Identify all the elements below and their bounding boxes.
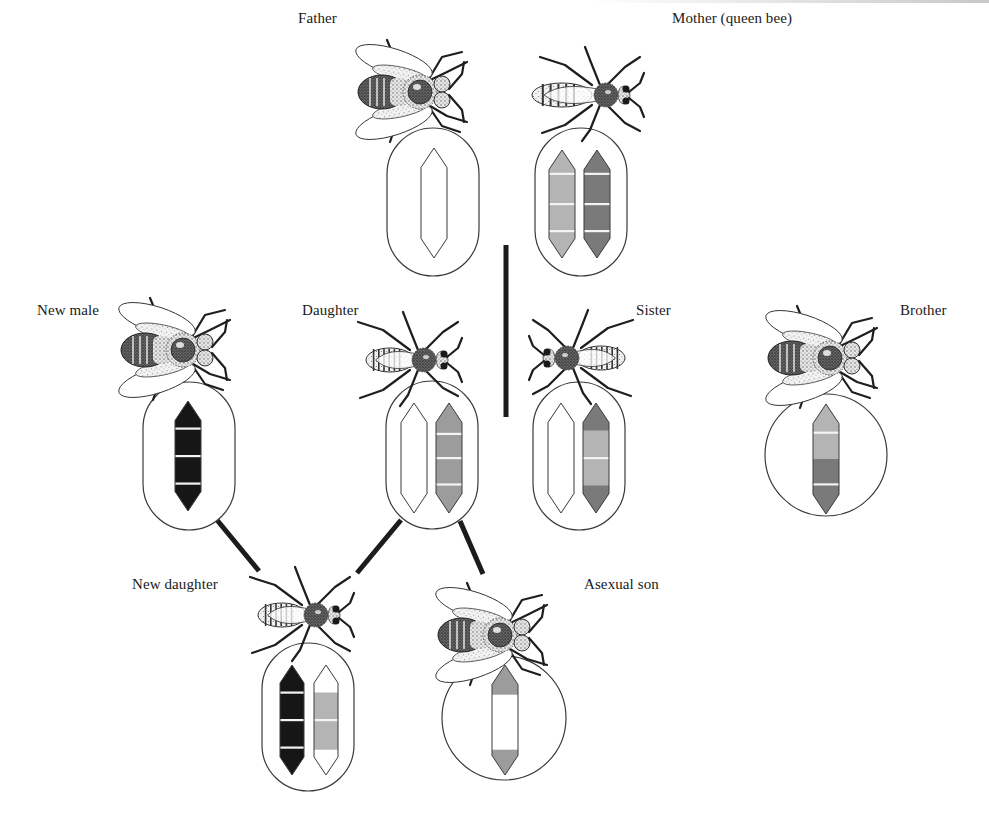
top-edge-shadow	[590, 0, 989, 3]
bee-inheritance-diagram: FatherMother (queen bee)New maleDaughter…	[0, 0, 989, 817]
label-father: Father	[298, 10, 337, 27]
bee-leg	[629, 98, 644, 117]
chromosome	[280, 665, 304, 776]
chromosome	[492, 665, 518, 776]
chromosome-band	[436, 483, 462, 485]
chromosome-segment	[421, 148, 447, 259]
bee-leg	[529, 361, 544, 380]
chromosome-band	[813, 432, 839, 434]
bee-leg	[573, 310, 588, 348]
label-new-daughter: New daughter	[132, 576, 218, 593]
bee-leg	[605, 103, 640, 131]
container-layer	[143, 128, 887, 791]
chromosome-band	[549, 203, 575, 205]
chromosome	[314, 665, 338, 776]
individual-new-daughter	[262, 643, 354, 791]
chromosome-band	[584, 173, 610, 175]
bee-leg	[339, 593, 354, 612]
chromosome-segment	[314, 693, 338, 751]
chromosome-band	[584, 230, 610, 232]
chromosome-band	[280, 747, 304, 749]
bee-leg	[529, 336, 544, 355]
individual-mother	[535, 128, 627, 276]
bee-leg	[358, 322, 410, 350]
chromosome-band	[175, 428, 201, 430]
label-new-male: New male	[37, 302, 99, 319]
bee-eye	[844, 342, 860, 358]
bee-leg	[605, 57, 640, 87]
bee-eye	[197, 334, 213, 350]
bee-worker-icon	[250, 567, 354, 661]
bee-layer	[115, 37, 877, 689]
chromosome-segment	[548, 403, 574, 514]
chromosome-segment	[401, 403, 427, 514]
chromosome-segment	[492, 695, 518, 751]
chromosome-band	[314, 719, 338, 721]
bee-eye	[434, 76, 450, 92]
bee-drone-icon	[762, 303, 877, 412]
bee-leg	[581, 320, 633, 348]
cell-capsule	[262, 643, 354, 791]
bee-leg	[339, 618, 354, 637]
chromosome-band	[549, 230, 575, 232]
chromosome-band	[436, 433, 462, 435]
diagram-canvas	[0, 0, 989, 817]
individual-brother	[765, 394, 887, 516]
label-mother: Mother (queen bee)	[672, 10, 792, 27]
connector-new-male-to-new-daughter	[217, 520, 259, 571]
chromosome-band	[584, 203, 610, 205]
individual-daughter	[386, 381, 478, 529]
bee-leg	[585, 47, 600, 85]
connector-daughter-to-asexual-son	[460, 521, 483, 574]
chromosome-band	[280, 719, 304, 721]
cell-capsule	[386, 381, 478, 529]
bee-leg	[540, 57, 592, 85]
bee-leg	[315, 577, 350, 607]
label-asexual-son: Asexual son	[584, 576, 659, 593]
chromosome-band	[583, 457, 609, 459]
chromosome-band	[280, 692, 304, 694]
chromosome-band	[436, 457, 462, 459]
bee-leg	[423, 322, 458, 352]
chromosome	[583, 403, 609, 514]
bee-thorax	[304, 603, 328, 627]
chromosome	[436, 403, 462, 514]
chromosome	[421, 148, 447, 259]
chromosome	[401, 403, 427, 514]
bee-leg	[447, 363, 462, 382]
individual-father	[387, 128, 479, 276]
chromosome-band	[813, 483, 839, 485]
bee-eye	[434, 92, 450, 108]
chromosome	[175, 401, 201, 512]
chromosome	[584, 150, 610, 259]
bee-leg	[403, 312, 418, 350]
bee-leg	[447, 338, 462, 357]
label-daughter: Daughter	[302, 302, 359, 319]
chromosome-band	[175, 455, 201, 457]
bee-drone-icon	[352, 37, 467, 146]
bee-eye	[844, 358, 860, 374]
label-brother: Brother	[900, 302, 947, 319]
bee-eye	[197, 350, 213, 366]
individual-sister	[533, 382, 625, 530]
bee-queen-icon	[532, 47, 644, 141]
chromosome	[549, 150, 575, 259]
label-sister: Sister	[636, 302, 671, 319]
bee-leg	[295, 567, 310, 605]
bee-eye	[514, 619, 530, 635]
chromosome-band	[549, 173, 575, 175]
bee-leg	[250, 577, 302, 605]
cell-capsule	[533, 382, 625, 530]
bee-worker-icon	[529, 310, 633, 404]
chromosome	[813, 404, 839, 515]
bee-thorax	[555, 346, 579, 370]
bee-thorax	[594, 83, 618, 107]
bee-eye	[514, 635, 530, 651]
bee-leg	[629, 73, 644, 92]
bee-leg	[533, 320, 568, 350]
chromosome	[548, 403, 574, 514]
connector-daughter-to-new-daughter	[357, 520, 401, 573]
individual-new-male	[143, 382, 235, 530]
bee-thorax	[412, 348, 436, 372]
chromosome-band	[175, 483, 201, 485]
